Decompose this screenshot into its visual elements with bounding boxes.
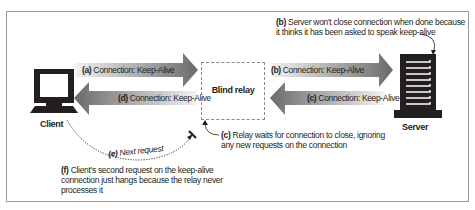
arrow-d-label: (d) Connection: Keep-Alive bbox=[118, 93, 211, 103]
arrow-c-text: Connection: Keep-Alive bbox=[318, 93, 399, 103]
note-f-line1-text: Client's second request on the keep-aliv… bbox=[71, 165, 214, 175]
note-b-line1: (b) Server won't close connection when d… bbox=[276, 17, 465, 27]
arrow-b-label: (b) Connection: Keep-Alive bbox=[271, 65, 364, 75]
arrow-a-label: (a) Connection: Keep-Alive bbox=[82, 65, 175, 75]
note-c-line2: any new requests on the connection bbox=[221, 140, 385, 150]
arrow-a-text: Connection: Keep-Alive bbox=[93, 65, 174, 75]
arrow-d-tag: (d) bbox=[118, 93, 128, 103]
arrow-c-label: (c) Connection: Keep-Alive bbox=[307, 93, 400, 103]
arrow-b-tag: (b) bbox=[271, 65, 281, 75]
note-f-line1: (f) Client's second request on the keep-… bbox=[61, 165, 223, 175]
note-b-line2: it thinks it has been asked to speak kee… bbox=[276, 27, 465, 37]
note-f: (f) Client's second request on the keep-… bbox=[61, 165, 223, 195]
blind-relay-label: Blind relay bbox=[202, 85, 264, 95]
note-c: (c) Relay waits for connection to close,… bbox=[221, 130, 385, 150]
note-f-tag: (f) bbox=[61, 165, 69, 175]
arrow-c-tag: (c) bbox=[307, 93, 316, 103]
arrow-a-tag: (a) bbox=[82, 65, 91, 75]
note-b-tag: (b) bbox=[276, 17, 286, 27]
note-c-line1-text: Relay waits for connection to close, ign… bbox=[233, 130, 385, 140]
note-c-tag: (c) bbox=[221, 130, 231, 140]
note-b-pointer-icon bbox=[420, 34, 436, 55]
next-request-tag: (e) bbox=[108, 148, 118, 159]
computer-monitor-icon bbox=[30, 69, 78, 113]
server-label: Server bbox=[402, 122, 428, 132]
note-b-line1-text: Server won't close connection when done … bbox=[288, 17, 465, 27]
note-b: (b) Server won't close connection when d… bbox=[276, 17, 465, 37]
client-label: Client bbox=[40, 119, 63, 129]
blind-relay-box: Blind relay bbox=[201, 62, 265, 120]
note-c-pointer-icon bbox=[202, 120, 219, 135]
arrow-b-text: Connection: Keep-Alive bbox=[283, 65, 364, 75]
note-f-line2: connection just hangs because the relay … bbox=[61, 175, 223, 185]
arrow-d-text: Connection: Keep-Alive bbox=[130, 93, 211, 103]
note-f-line3: processes it bbox=[61, 185, 223, 195]
note-c-line1: (c) Relay waits for connection to close,… bbox=[221, 130, 385, 140]
server-tower-icon bbox=[394, 54, 442, 118]
